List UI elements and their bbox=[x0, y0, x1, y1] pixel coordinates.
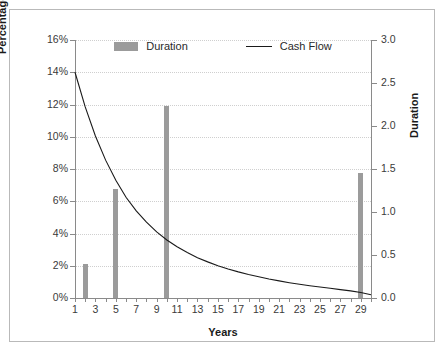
x-tick bbox=[371, 298, 372, 302]
x-tick-label: 25 bbox=[310, 303, 330, 315]
chart-figure: Duration Cash Flow Percentage of Total C… bbox=[9, 9, 435, 342]
y-tick-label-right: 1.5 bbox=[381, 162, 421, 174]
y-tick-right bbox=[371, 126, 377, 127]
x-tick bbox=[126, 298, 127, 302]
y-axis-title-left: Percentage of Total Cash Flow bbox=[0, 0, 8, 54]
y-tick-label-left: 6% bbox=[22, 194, 68, 206]
axis-line-bottom bbox=[75, 298, 372, 299]
y-tick-label-left: 4% bbox=[22, 227, 68, 239]
y-tick-label-left: 16% bbox=[22, 33, 68, 45]
x-tick bbox=[289, 298, 290, 302]
x-tick bbox=[75, 298, 76, 302]
x-tick bbox=[361, 298, 362, 302]
x-tick bbox=[330, 298, 331, 302]
x-tick bbox=[249, 298, 250, 302]
y-tick-label-right: 2.0 bbox=[381, 119, 421, 131]
x-tick bbox=[259, 298, 260, 302]
x-tick bbox=[157, 298, 158, 302]
x-tick-label: 5 bbox=[106, 303, 126, 315]
x-tick bbox=[351, 298, 352, 302]
x-tick bbox=[310, 298, 311, 302]
x-tick-label: 21 bbox=[269, 303, 289, 315]
x-tick bbox=[218, 298, 219, 302]
y-tick-right bbox=[371, 40, 377, 41]
y-tick-label-left: 14% bbox=[22, 65, 68, 77]
x-tick bbox=[136, 298, 137, 302]
x-tick bbox=[269, 298, 270, 302]
x-tick bbox=[116, 298, 117, 302]
x-tick bbox=[197, 298, 198, 302]
x-tick bbox=[320, 298, 321, 302]
y-tick-label-left: 10% bbox=[22, 130, 68, 142]
x-tick-label: 19 bbox=[249, 303, 269, 315]
x-tick bbox=[95, 298, 96, 302]
x-tick-label: 13 bbox=[187, 303, 207, 315]
y-tick-right bbox=[371, 169, 377, 170]
x-axis-title: Years bbox=[75, 326, 371, 338]
y-tick-label-right: 0.0 bbox=[381, 291, 421, 303]
x-tick bbox=[146, 298, 147, 302]
x-tick bbox=[177, 298, 178, 302]
x-tick-label: 17 bbox=[228, 303, 248, 315]
y-axis-title-right: Duration bbox=[408, 93, 420, 138]
y-tick-right bbox=[371, 255, 377, 256]
x-tick bbox=[208, 298, 209, 302]
x-tick-label: 23 bbox=[290, 303, 310, 315]
x-tick-label: 15 bbox=[208, 303, 228, 315]
y-tick-label-left: 2% bbox=[22, 259, 68, 271]
x-tick-label: 3 bbox=[85, 303, 105, 315]
line-series-cash-flow bbox=[75, 40, 371, 298]
x-tick-label: 27 bbox=[330, 303, 350, 315]
x-tick bbox=[85, 298, 86, 302]
x-tick-label: 7 bbox=[126, 303, 146, 315]
y-tick-right bbox=[371, 83, 377, 84]
x-tick bbox=[300, 298, 301, 302]
x-tick-label: 11 bbox=[167, 303, 187, 315]
y-tick-label-left: 0% bbox=[22, 291, 68, 303]
x-tick-label: 29 bbox=[351, 303, 371, 315]
y-tick-label-right: 0.5 bbox=[381, 248, 421, 260]
x-tick bbox=[167, 298, 168, 302]
x-tick-label: 9 bbox=[147, 303, 167, 315]
y-tick-label-right: 2.5 bbox=[381, 76, 421, 88]
x-tick bbox=[279, 298, 280, 302]
plot-area: 16%14%12%10%8%6%4%2%0% 3.02.52.01.51.00.… bbox=[75, 40, 371, 298]
x-tick bbox=[106, 298, 107, 302]
y-tick-label-right: 1.0 bbox=[381, 205, 421, 217]
x-tick bbox=[187, 298, 188, 302]
y-tick-label-left: 8% bbox=[22, 162, 68, 174]
y-tick-right bbox=[371, 212, 377, 213]
x-tick bbox=[228, 298, 229, 302]
x-tick bbox=[238, 298, 239, 302]
x-tick bbox=[340, 298, 341, 302]
y-tick-label-left: 12% bbox=[22, 98, 68, 110]
y-tick-label-right: 3.0 bbox=[381, 33, 421, 45]
x-tick-label: 1 bbox=[65, 303, 85, 315]
